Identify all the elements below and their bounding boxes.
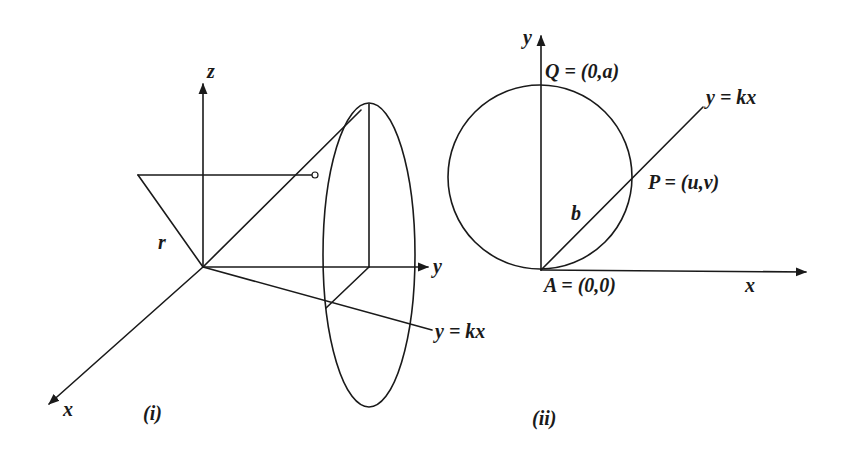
- figure-i: z y x r y = kx (i): [49, 60, 485, 425]
- y-axis-label: y: [431, 255, 442, 278]
- x-axis-label: x: [62, 398, 73, 420]
- point-a-label: A = (0,0): [542, 274, 616, 297]
- circle: [448, 85, 632, 269]
- point-p-label: P = (u,v): [647, 171, 719, 194]
- line-y-kx: [203, 267, 432, 330]
- x-axis: [541, 270, 806, 272]
- point-q-label: Q = (0,a): [545, 60, 619, 83]
- figure-ii-caption: (ii): [532, 407, 556, 430]
- z-axis-label: z: [206, 60, 215, 82]
- chord-label: b: [571, 202, 581, 224]
- figure-ii: y x Q = (0,a) y = kx P = (u,v) b A = (0,…: [448, 26, 806, 430]
- diagonal-base-line: [326, 267, 369, 308]
- cone-generator-line: [203, 110, 361, 267]
- radius-line: [138, 175, 203, 267]
- figure-i-caption: (i): [143, 402, 162, 425]
- x-axis-label: x: [744, 274, 755, 296]
- line-label: y = kx: [433, 320, 485, 343]
- line-label: y = kx: [704, 86, 756, 109]
- y-axis-label: y: [521, 26, 532, 49]
- open-point-marker: [312, 172, 318, 178]
- x-axis: [49, 267, 203, 404]
- radius-label: r: [158, 231, 166, 253]
- diagram-canvas: z y x r y = kx (i) y x Q = (0,a) y = kx …: [0, 0, 848, 458]
